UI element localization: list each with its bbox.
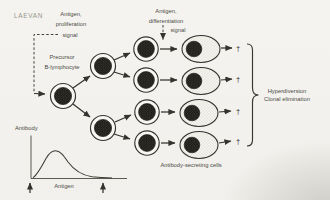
antibody-response-curve [33,151,112,178]
outcome-line1: Hyperdiversion [268,88,307,94]
differentiation-signal-line1: Antigen, [155,8,177,14]
arrow [73,104,90,117]
arrow [115,115,131,122]
outcome-label: Hyperdiversion Clonal elimination [264,88,310,102]
b-lymphocyte-cell [135,131,159,155]
dagger-symbol: † [236,75,240,84]
arrow [219,111,231,112]
antibody-secreting-cell [182,36,220,63]
immunology-figure: LAEVAN Antigen, proliferation signal Ant… [0,0,330,200]
brace [247,44,259,146]
arrow [114,134,130,139]
arrow [221,79,232,80]
arrow [114,53,130,60]
differentiation-signal-line3: signal [170,27,185,33]
cell-nucleus [94,119,111,136]
b-lymphocyte-cell [91,116,116,141]
cell-nucleus [184,137,200,153]
differentiation-signal-line2: differentiation [149,18,184,24]
b-lymphocyte-differentiation-diagram: LAEVAN Antigen, proliferation signal Ant… [0,0,330,200]
arrow [114,72,130,77]
arrow [73,76,90,88]
precursor-label: Precursor B-lymphocyte [44,54,79,70]
cell-nucleus [138,41,155,58]
cell-nucleus [186,73,202,89]
dagger-symbol: † [236,107,240,116]
b-lymphocyte-cell [134,68,158,92]
arrow [219,141,231,143]
proliferation-signal-line1: Antigen, [60,11,82,17]
y-axis-label: Antibody [15,125,38,131]
cell-nucleus [184,105,200,121]
b-lymphocyte-cell [135,100,159,124]
b-lymphocyte-cell [134,37,158,61]
proliferation-signal-line2: proliferation [56,21,86,27]
secreting-cells-label: Antibody-secreting cells [160,162,221,168]
cell-nucleus [186,41,202,57]
cell-nucleus [138,72,155,89]
dagger-symbol: † [236,44,240,53]
outcome-line2: Clonal elimination [264,96,310,102]
proliferation-signal-line3: signal [62,32,77,38]
x-axis-label: Antigen [54,183,74,189]
differentiation-signal-label: Antigen, differentiation signal [149,8,186,33]
proliferation-signal-label: Antigen, proliferation signal [56,11,86,38]
antibody-secreting-cell [180,132,218,159]
antibody-secreting-cell [182,68,220,95]
proliferation-signal-arrow [34,94,45,95]
b-lymphocyte-cell [91,54,116,79]
precursor-label-line2: B-lymphocyte [44,64,79,70]
cell-nucleus [139,104,156,121]
cell-nucleus [139,135,156,152]
watermark-laevan: LAEVAN [14,12,43,19]
cell-nucleus [94,57,111,74]
antibody-secreting-cell [180,100,218,127]
precursor-label-line1: Precursor [49,54,74,60]
dagger-symbol: † [236,137,240,146]
precursor-b-lymphocyte-cell [51,84,76,109]
cell-nucleus [54,87,71,104]
